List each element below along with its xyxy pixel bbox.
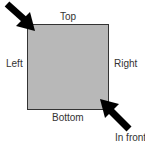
square [28,25,109,110]
label-top: Top [60,12,76,22]
arrow-up-left-icon [100,99,129,129]
label-bottom: Bottom [52,113,84,123]
arrow-down-right-icon [7,4,35,31]
label-right: Right [114,59,137,69]
label-in-front: In front [115,133,145,143]
label-left: Left [6,59,23,69]
diagram: Top Left Right Bottom In front [0,0,145,145]
